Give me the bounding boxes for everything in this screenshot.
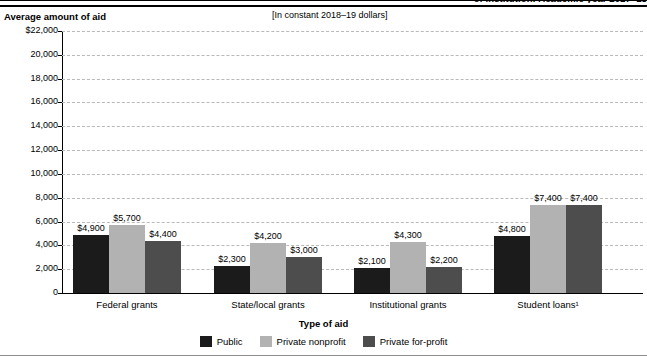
bar-value-label: $3,000 <box>281 245 327 255</box>
y-axis-tick-label: 2,000 <box>2 263 58 273</box>
bar-value-label: $2,300 <box>209 254 255 264</box>
y-axis-tick <box>58 245 62 246</box>
y-axis-tick <box>58 126 62 127</box>
bar <box>214 266 250 293</box>
bar-value-label: $4,300 <box>385 230 431 240</box>
legend-item[interactable]: Private for-profit <box>363 336 448 347</box>
bar-group: $2,300$4,200$3,000 <box>214 31 322 293</box>
y-axis-tick-label: 18,000 <box>2 73 58 83</box>
bar-value-label: $2,200 <box>421 255 467 265</box>
legend-item[interactable]: Private nonprofit <box>260 336 346 347</box>
bar-value-label: $4,200 <box>245 231 291 241</box>
bar <box>145 241 181 293</box>
y-axis-tick <box>58 150 62 151</box>
legend-item[interactable]: Public <box>200 336 243 347</box>
legend-label: Public <box>217 336 243 347</box>
bar-value-label: $4,900 <box>68 223 114 233</box>
y-axis-tick-label: 4,000 <box>2 239 58 249</box>
y-axis-tick <box>58 269 62 270</box>
y-axis-tick-label: 14,000 <box>2 120 58 130</box>
y-axis-tick <box>58 79 62 80</box>
x-axis-category-label: State/local grants <box>208 299 328 310</box>
legend-swatch-icon <box>363 336 375 347</box>
bar <box>566 205 602 293</box>
y-axis-tick <box>58 55 62 56</box>
y-axis-tick <box>58 31 62 32</box>
bar <box>494 236 530 293</box>
bar <box>354 268 390 293</box>
y-axis-line <box>62 31 63 294</box>
bar-value-label: $2,100 <box>349 256 395 266</box>
y-axis-tick-label: 10,000 <box>2 168 58 178</box>
bar <box>426 267 462 293</box>
y-axis-tick-label: $22,000 <box>2 25 58 35</box>
y-axis-tick-label: 6,000 <box>2 216 58 226</box>
y-axis-title: Average amount of aid <box>4 11 106 22</box>
legend-swatch-icon <box>260 336 272 347</box>
y-axis-tick <box>58 174 62 175</box>
y-axis-tick <box>58 293 62 294</box>
y-axis-tick-label: 20,000 <box>2 49 58 59</box>
bar <box>530 205 566 293</box>
x-axis-category-label: Student loans¹ <box>488 299 608 310</box>
chart-legend: PublicPrivate nonprofitPrivate for-profi… <box>0 336 647 347</box>
bar-group: $4,800$7,400$7,400 <box>494 31 602 293</box>
legend-label: Private nonprofit <box>277 336 346 347</box>
legend-label: Private for-profit <box>380 336 448 347</box>
y-axis-tick <box>58 102 62 103</box>
bar-value-label: $4,400 <box>140 229 186 239</box>
x-axis-category-label: Institutional grants <box>348 299 468 310</box>
x-axis-line <box>62 293 643 294</box>
bar-group: $4,900$5,700$4,400 <box>73 31 181 293</box>
bar-value-label: $4,800 <box>489 224 535 234</box>
x-axis-title: Type of aid <box>0 318 647 329</box>
y-axis-tick-label: 12,000 <box>2 144 58 154</box>
bar <box>390 242 426 293</box>
y-axis-tick <box>58 222 62 223</box>
y-axis-tick-label: 8,000 <box>2 192 58 202</box>
bar <box>73 235 109 293</box>
figure-title: of institution: Academic year 2017–18 <box>210 0 647 3</box>
plot-area: $22,00020,00018,00016,00014,00012,00010,… <box>62 31 643 294</box>
bottom-rule <box>0 355 647 356</box>
chart-figure: of institution: Academic year 2017–18 Av… <box>0 0 647 357</box>
y-axis-tick-label: 0 <box>2 287 58 297</box>
legend-swatch-icon <box>200 336 212 347</box>
y-axis-tick-label: 16,000 <box>2 96 58 106</box>
bar-group: $2,100$4,300$2,200 <box>354 31 462 293</box>
y-axis-tick <box>58 198 62 199</box>
bar <box>286 257 322 293</box>
bar-value-label: $5,700 <box>104 213 150 223</box>
chart-subtitle: [In constant 2018–19 dollars] <box>272 10 388 20</box>
x-axis-category-label: Federal grants <box>67 299 187 310</box>
top-rule-lower <box>0 5 647 7</box>
bar-value-label: $7,400 <box>561 193 607 203</box>
